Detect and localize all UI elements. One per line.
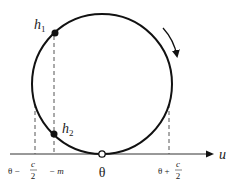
u-axis-label: u (219, 147, 226, 162)
svg-text:θ +: θ + (158, 166, 170, 176)
point-h1 (52, 30, 59, 37)
tick-label-theta: θ (99, 165, 106, 180)
point-h2 (51, 131, 58, 138)
svg-text:2: 2 (31, 171, 36, 181)
label-h2: h2 (62, 121, 74, 138)
circle-diagram: u h1 h2 θ − c 2 − m θ θ + c 2 (0, 0, 241, 186)
point-theta (99, 151, 105, 157)
tick-label-theta-plus-c2: θ + c 2 (158, 159, 182, 181)
svg-text:θ −: θ − (8, 166, 20, 176)
svg-text:c: c (176, 159, 180, 169)
svg-text:c: c (31, 159, 35, 169)
svg-text:2: 2 (176, 171, 181, 181)
tick-label-m: − m (49, 166, 64, 176)
label-h1: h1 (34, 17, 46, 34)
u-axis-arrow-icon (206, 151, 214, 158)
tick-label-theta-minus-c2: θ − c 2 (8, 159, 37, 181)
